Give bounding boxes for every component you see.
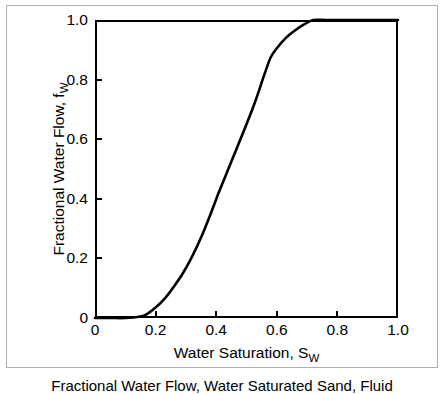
- figure-caption: Fractional Water Flow, Water Saturated S…: [6, 377, 438, 394]
- y-tick-0.2: [95, 257, 102, 259]
- y-tick-label-0: 0: [79, 310, 88, 326]
- x-axis-title-text: Water Saturation, S: [174, 344, 309, 361]
- x-tick-0.8: [336, 311, 338, 318]
- x-tick-label-1.0: 1.0: [387, 322, 409, 338]
- x-tick-0.2: [155, 311, 157, 318]
- y-axis-title-text: Fractional Water Flow, f: [50, 93, 67, 255]
- x-tick-label-0.2: 0.2: [145, 322, 167, 338]
- fractional-flow-curve: [95, 20, 398, 318]
- x-tick-label-0.4: 0.4: [205, 322, 227, 338]
- chart-plot-area: [95, 20, 398, 318]
- x-tick-label-0: 0: [91, 322, 100, 338]
- x-axis-title-subscript: W: [308, 352, 319, 364]
- x-tick-0.6: [276, 311, 278, 318]
- x-tick-label-0.8: 0.8: [327, 322, 349, 338]
- x-tick-label-0.6: 0.6: [266, 322, 288, 338]
- y-axis-title: Fractional Water Flow, fW: [50, 20, 70, 318]
- y-tick-0.6: [95, 138, 102, 140]
- y-tick-0.8: [95, 79, 102, 81]
- y-tick-0.4: [95, 198, 102, 200]
- x-axis-title: Water Saturation, SW: [95, 344, 398, 364]
- x-tick-0.4: [215, 311, 217, 318]
- curve-path: [95, 20, 398, 318]
- y-axis-title-subscript: W: [58, 82, 70, 93]
